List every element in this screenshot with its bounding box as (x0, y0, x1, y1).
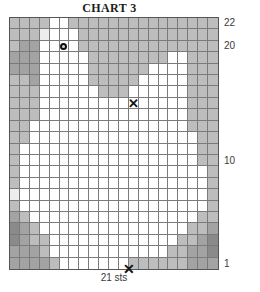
grid-cell[interactable] (50, 86, 60, 97)
grid-cell[interactable] (50, 223, 60, 234)
grid-cell[interactable] (30, 109, 40, 120)
grid-cell[interactable] (139, 41, 149, 52)
grid-cell[interactable] (109, 121, 119, 132)
grid-cell[interactable] (159, 109, 169, 120)
grid-cell[interactable]: ✕ (129, 98, 139, 109)
grid-cell[interactable] (69, 29, 79, 40)
grid-cell[interactable] (10, 246, 20, 257)
grid-cell[interactable] (168, 121, 178, 132)
grid-cell[interactable] (208, 132, 218, 143)
grid-cell[interactable] (139, 189, 149, 200)
grid-cell[interactable] (139, 178, 149, 189)
grid-cell[interactable] (149, 223, 159, 234)
grid-cell[interactable] (139, 29, 149, 40)
grid-cell[interactable] (79, 212, 89, 223)
grid-cell[interactable] (149, 52, 159, 63)
grid-cell[interactable] (129, 201, 139, 212)
grid-cell[interactable] (159, 166, 169, 177)
grid-cell[interactable] (30, 189, 40, 200)
grid-cell[interactable] (198, 223, 208, 234)
grid-cell[interactable] (20, 98, 30, 109)
grid-cell[interactable] (139, 86, 149, 97)
grid-cell[interactable] (89, 52, 99, 63)
grid-cell[interactable] (10, 166, 20, 177)
grid-cell[interactable] (188, 29, 198, 40)
grid-cell[interactable] (99, 178, 109, 189)
grid-cell[interactable] (40, 155, 50, 166)
grid-cell[interactable] (30, 29, 40, 40)
grid-cell[interactable] (40, 109, 50, 120)
grid-cell[interactable] (188, 109, 198, 120)
grid-cell[interactable] (178, 52, 188, 63)
grid-cell[interactable] (99, 18, 109, 29)
grid-cell[interactable] (40, 189, 50, 200)
grid-cell[interactable] (89, 144, 99, 155)
grid-cell[interactable] (69, 41, 79, 52)
knitting-chart-grid-container[interactable]: ✕ (9, 17, 219, 270)
grid-cell[interactable] (30, 178, 40, 189)
grid-cell[interactable] (89, 212, 99, 223)
grid-cell[interactable] (10, 178, 20, 189)
grid-cell[interactable] (40, 246, 50, 257)
grid-cell[interactable] (89, 86, 99, 97)
grid-cell[interactable] (129, 86, 139, 97)
grid-cell[interactable] (69, 166, 79, 177)
grid-cell[interactable] (178, 144, 188, 155)
grid-cell[interactable] (99, 155, 109, 166)
grid-cell[interactable] (198, 178, 208, 189)
grid-cell[interactable] (119, 98, 129, 109)
grid-cell[interactable] (10, 86, 20, 97)
grid-cell[interactable] (60, 41, 70, 52)
grid-cell[interactable] (198, 75, 208, 86)
grid-cell[interactable] (109, 201, 119, 212)
grid-cell[interactable] (208, 144, 218, 155)
grid-cell[interactable] (10, 18, 20, 29)
grid-cell[interactable] (30, 246, 40, 257)
grid-cell[interactable] (109, 246, 119, 257)
grid-cell[interactable] (178, 223, 188, 234)
grid-cell[interactable] (50, 52, 60, 63)
grid-cell[interactable] (149, 178, 159, 189)
grid-cell[interactable] (188, 189, 198, 200)
grid-cell[interactable] (198, 189, 208, 200)
grid-cell[interactable] (89, 258, 99, 269)
grid-cell[interactable] (159, 98, 169, 109)
grid-cell[interactable] (178, 98, 188, 109)
grid-cell[interactable] (30, 98, 40, 109)
grid-cell[interactable] (208, 246, 218, 257)
grid-cell[interactable] (20, 41, 30, 52)
grid-cell[interactable] (188, 18, 198, 29)
grid-cell[interactable] (188, 52, 198, 63)
grid-cell[interactable] (119, 41, 129, 52)
grid-cell[interactable] (99, 201, 109, 212)
grid-cell[interactable] (30, 223, 40, 234)
grid-cell[interactable] (99, 132, 109, 143)
knitting-chart-grid[interactable]: ✕ (10, 18, 218, 269)
grid-cell[interactable] (159, 29, 169, 40)
grid-cell[interactable] (178, 258, 188, 269)
grid-cell[interactable] (168, 18, 178, 29)
grid-cell[interactable] (119, 155, 129, 166)
grid-cell[interactable] (89, 75, 99, 86)
grid-cell[interactable] (20, 75, 30, 86)
grid-cell[interactable] (109, 155, 119, 166)
grid-cell[interactable] (208, 223, 218, 234)
grid-cell[interactable] (10, 189, 20, 200)
grid-cell[interactable] (139, 155, 149, 166)
grid-cell[interactable] (149, 41, 159, 52)
grid-cell[interactable] (10, 52, 20, 63)
grid-cell[interactable] (20, 64, 30, 75)
grid-cell[interactable] (99, 75, 109, 86)
grid-cell[interactable] (188, 86, 198, 97)
grid-cell[interactable] (60, 178, 70, 189)
grid-cell[interactable] (99, 41, 109, 52)
grid-cell[interactable] (60, 258, 70, 269)
grid-cell[interactable] (168, 75, 178, 86)
grid-cell[interactable] (168, 212, 178, 223)
grid-cell[interactable] (40, 212, 50, 223)
grid-cell[interactable] (40, 41, 50, 52)
grid-cell[interactable] (10, 29, 20, 40)
grid-cell[interactable] (208, 41, 218, 52)
grid-cell[interactable] (20, 109, 30, 120)
grid-cell[interactable] (30, 86, 40, 97)
